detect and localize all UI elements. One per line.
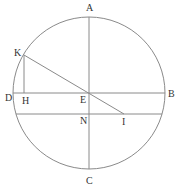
label-D: D	[5, 92, 12, 103]
label-B: B	[168, 88, 175, 99]
label-C: C	[86, 175, 93, 186]
label-H: H	[22, 95, 29, 106]
geometry-diagram: A B C D E H K N I	[0, 0, 180, 189]
label-A: A	[86, 2, 94, 13]
label-E: E	[80, 94, 86, 105]
segment-KI	[24, 55, 124, 114]
label-K: K	[14, 47, 22, 58]
label-I: I	[122, 116, 125, 127]
label-N: N	[80, 115, 87, 126]
